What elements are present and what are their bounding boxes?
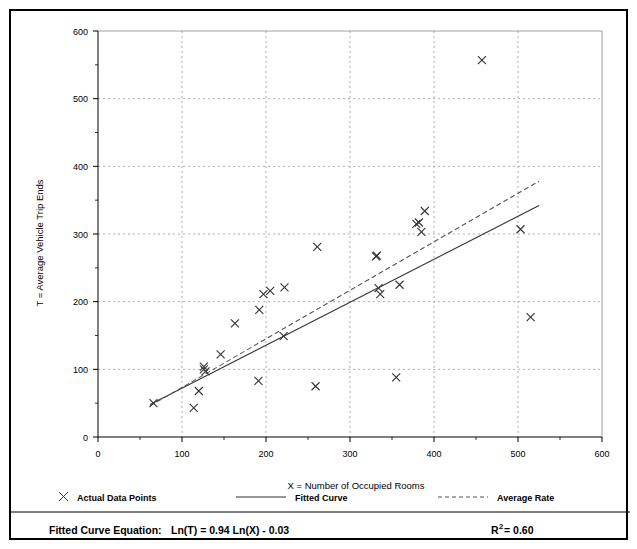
- data-point-marker: [312, 382, 320, 390]
- y-axis-title: T = Average Vehicle Trip Ends: [34, 179, 45, 306]
- y-tick-label: 200: [73, 297, 88, 307]
- x-tick-label: 500: [510, 449, 525, 459]
- data-point-marker: [396, 281, 404, 289]
- x-tick-label: 400: [426, 449, 441, 459]
- data-point-marker: [313, 243, 321, 251]
- legend-entry-average-rate: Average Rate: [438, 493, 554, 503]
- x-axis-title: X = Number of Occupied Rooms: [287, 480, 424, 491]
- data-point-markers: [149, 56, 534, 412]
- legend-label-fitted-curve: Fitted Curve: [295, 493, 348, 503]
- data-point-marker: [478, 56, 486, 64]
- data-point-marker: [375, 284, 383, 292]
- data-point-marker: [376, 290, 384, 298]
- scatter-chart-svg: 0100200300400500600 0100200300400500600 …: [11, 11, 630, 542]
- data-point-marker: [280, 283, 288, 291]
- chart-plot-container: 0100200300400500600 0100200300400500600 …: [11, 11, 630, 542]
- x-tick-label: 0: [95, 449, 100, 459]
- x-tick-label: 600: [594, 449, 609, 459]
- chart-figure-frame: 0100200300400500600 0100200300400500600 …: [9, 9, 628, 540]
- y-tick-label: 600: [73, 27, 88, 37]
- r-squared-exponent: 2: [499, 522, 503, 531]
- grid-lines: [98, 31, 602, 437]
- data-point-marker: [190, 404, 198, 412]
- axis-tick-marks: [93, 31, 602, 442]
- data-point-marker: [417, 228, 425, 236]
- x-marker-icon: [59, 492, 68, 501]
- data-point-marker: [421, 207, 429, 215]
- chart-footer: Fitted Curve Equation: Ln(T) = 0.94 Ln(X…: [49, 522, 534, 536]
- trend-line-average-rate: [150, 181, 539, 406]
- y-tick-label: 300: [73, 230, 88, 240]
- x-tick-label: 200: [258, 449, 273, 459]
- legend-entry-fitted-curve: Fitted Curve: [236, 493, 348, 503]
- y-tick-label: 500: [73, 94, 88, 104]
- data-point-marker: [195, 387, 203, 395]
- trend-lines: [150, 181, 539, 406]
- data-point-marker: [149, 399, 157, 407]
- legend-label-average-rate: Average Rate: [497, 493, 554, 503]
- chart-legend: Actual Data Points Fitted Curve Average …: [59, 492, 554, 503]
- data-point-marker: [412, 220, 420, 228]
- fitted-curve-equation-value: Ln(T) = 0.94 Ln(X) - 0.03: [171, 524, 289, 536]
- x-axis-tick-labels: 0100200300400500600: [95, 449, 609, 459]
- data-point-marker: [231, 319, 239, 327]
- r-squared-label: R: [491, 524, 499, 536]
- data-point-marker: [415, 218, 423, 226]
- fitted-curve-equation-label: Fitted Curve Equation:: [49, 524, 162, 536]
- data-point-marker: [255, 306, 263, 314]
- y-tick-label: 400: [73, 162, 88, 172]
- x-tick-label: 300: [342, 449, 357, 459]
- x-tick-label: 100: [174, 449, 189, 459]
- y-axis-tick-labels: 0100200300400500600: [73, 27, 88, 443]
- data-point-marker: [373, 252, 381, 260]
- legend-label-actual-data-points: Actual Data Points: [77, 493, 157, 503]
- legend-entry-actual-data-points: Actual Data Points: [59, 492, 157, 503]
- data-point-marker: [527, 313, 535, 321]
- data-point-marker: [280, 332, 288, 340]
- data-point-marker: [392, 373, 400, 381]
- data-point-marker: [254, 377, 262, 385]
- data-point-marker: [517, 225, 525, 233]
- y-tick-label: 100: [73, 365, 88, 375]
- y-tick-label: 0: [83, 433, 88, 443]
- r-squared-value: = 0.60: [504, 524, 534, 536]
- data-point-marker: [217, 350, 225, 358]
